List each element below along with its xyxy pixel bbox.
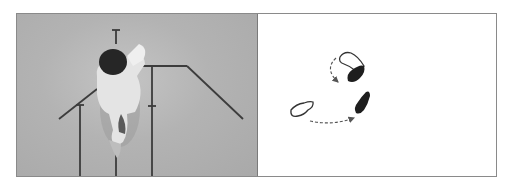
- figure-frame: [16, 13, 497, 177]
- person-figure: [97, 44, 146, 158]
- floor-lines: [59, 30, 243, 176]
- footprint-diagram: [258, 14, 496, 178]
- photo-panel: [17, 14, 258, 176]
- step-arrow-lower: [310, 118, 354, 123]
- start-footprint-lower: [291, 102, 313, 117]
- end-footprint-upper: [348, 66, 365, 83]
- pivot-arrow-upper: [330, 58, 338, 82]
- floor-markings-photo: [17, 14, 258, 176]
- diagram-panel: [258, 14, 496, 176]
- end-footprint-lower: [355, 92, 370, 114]
